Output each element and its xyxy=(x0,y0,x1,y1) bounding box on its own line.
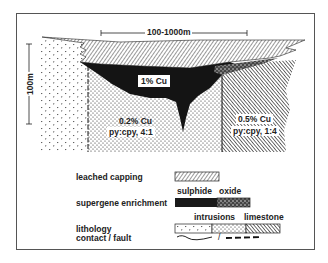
intrusion-grade-label: 0.2% Cu xyxy=(117,116,154,126)
horizontal-scale-label: 100-1000m xyxy=(145,27,192,37)
legend-limestone-label: limestone xyxy=(244,212,284,222)
limestone-grade-label: 0.5% Cu xyxy=(236,114,273,124)
legend-oxide-label: oxide xyxy=(219,186,241,196)
enriched-grade-label: 1% Cu xyxy=(138,75,170,87)
limestone-ratio-label: py:cpy, 1:4 xyxy=(231,126,279,136)
cross-section-diagram xyxy=(0,0,328,263)
legend-supergene-enrichment-label: supergene enrichment xyxy=(76,198,167,208)
legend-swatch-intrusion-outer xyxy=(175,224,212,233)
vertical-scale-label: 100m xyxy=(25,72,35,96)
legend-fault-symbol xyxy=(226,237,262,238)
legend-sulphide-label: sulphide xyxy=(177,186,212,196)
legend-leached-capping-label: leached capping xyxy=(76,172,143,182)
legend-intrusions-label: intrusions xyxy=(194,212,235,222)
legend-contact-fault-separator: / xyxy=(218,232,220,242)
intrusion-ratio-label: py:cpy, 4:1 xyxy=(107,127,155,137)
legend-swatch-sulphide xyxy=(175,198,217,207)
legend-contact-symbol xyxy=(177,236,212,240)
legend-contact-fault-label: contact / fault xyxy=(76,233,131,243)
legend-swatch-oxide xyxy=(217,198,250,207)
limestone-zone xyxy=(222,60,296,152)
legend-swatch-limestone xyxy=(246,224,280,233)
outer-intrusion-zone xyxy=(40,38,88,152)
legend-swatch-leached-capping xyxy=(175,172,219,181)
